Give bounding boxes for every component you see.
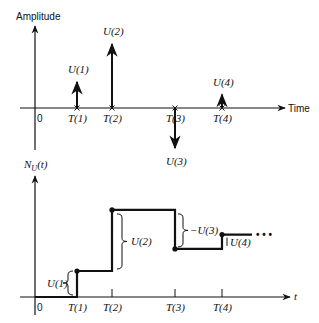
brace-label-u4: U(4) (230, 236, 251, 249)
diagram-canvas: Amplitude Time 0 T(1)U(1)T(2)U(2)T(3)U(3… (0, 0, 319, 323)
brace-label-u3: −U(3) (190, 224, 219, 237)
step-function-group: • • •T(1)T(2)T(3)T(4)U(1)U(2)−U(3)U(4) (35, 207, 273, 314)
amplitude-label-3: U(3) (166, 155, 187, 168)
brace-u3 (178, 214, 188, 247)
top-plot: Amplitude Time 0 T(1)U(1)T(2)U(2)T(3)U(3… (16, 11, 310, 168)
time-label-3: T(3) (166, 112, 185, 125)
bottom-origin-label: 0 (37, 302, 43, 313)
brace-label-u1: U(1) (47, 277, 68, 290)
top-x-axis-label: Time (288, 103, 310, 114)
bottom-time-label-3: T(3) (166, 301, 185, 314)
bottom-time-label-1: T(1) (68, 301, 87, 314)
bottom-time-label-4: T(4) (213, 301, 232, 314)
brace-label-u2: U(2) (131, 235, 152, 248)
impulse-group: T(1)U(1)T(2)U(2)T(3)U(3)T(4)U(4) (68, 25, 234, 168)
bottom-y-axis-label: NU(t) (23, 158, 48, 173)
jump-point-4 (219, 232, 224, 237)
jump-point-3 (172, 246, 177, 251)
bottom-plot: NU(t) t 0 • • •T(1)T(2)T(3)T(4)U(1)U(2)−… (20, 158, 298, 315)
jump-point-1 (74, 268, 79, 273)
amplitude-label-4: U(4) (213, 76, 234, 89)
time-label-2: T(2) (103, 112, 122, 125)
continuation-dots: • • • (256, 229, 273, 240)
bottom-time-label-2: T(2) (103, 301, 122, 314)
amplitude-label-2: U(2) (103, 25, 124, 38)
top-origin-label: 0 (37, 113, 43, 124)
time-label-4: T(4) (213, 112, 232, 125)
time-label-1: T(1) (68, 112, 87, 125)
bottom-x-axis-label: t (294, 290, 298, 302)
jump-point-2 (109, 207, 114, 212)
brace-u2 (117, 214, 127, 269)
top-y-axis-label: Amplitude (16, 11, 61, 22)
amplitude-label-1: U(1) (68, 63, 89, 76)
